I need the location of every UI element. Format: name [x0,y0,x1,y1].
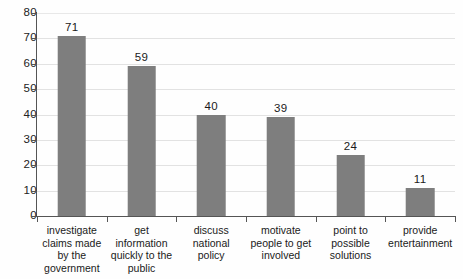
bar-slot: 71 [37,13,107,216]
x-category-label-line: information [109,237,175,250]
x-category-label: investigateclaims madeby thegovernment [37,224,107,279]
bar-value-label: 40 [204,101,218,113]
x-category-label-line: point to [318,224,384,237]
x-category-label-line: motivate [248,224,314,237]
bar[interactable] [336,155,365,216]
bar[interactable] [127,66,156,216]
bar-value-label: 59 [135,52,149,64]
x-category-label-line: discuss [178,224,244,237]
bar-slot: 40 [176,13,246,216]
x-category-label-line: get [109,224,175,237]
x-category-label-line: possible [318,237,384,250]
x-axis-category-labels: investigateclaims madeby thegovernmentge… [37,224,455,279]
bar-value-label: 24 [344,141,358,153]
x-tick-mark [385,216,386,222]
x-category-label-line: national [178,237,244,250]
x-category-label-line: policy [178,249,244,262]
x-tick-mark [316,216,317,222]
x-category-label-line: solutions [318,249,384,262]
x-category-label: provideentertainment [385,224,455,279]
x-category-label-line: claims made [39,237,105,250]
bar-series: 715940392411 [37,13,455,216]
bar[interactable] [267,117,296,216]
bar[interactable] [406,188,435,216]
bar-value-label: 11 [414,174,427,186]
x-category-label: discussnationalpolicy [176,224,246,279]
x-category-label: motivatepeople to getinvolved [246,224,316,279]
x-category-label-line: people to get [248,237,314,250]
bar[interactable] [58,36,87,216]
bar-chart: 01020304050607080 715940392411 investiga… [0,0,463,279]
x-tick-mark [246,216,247,222]
x-category-label: point topossiblesolutions [316,224,386,279]
bar-value-label: 39 [274,103,288,115]
x-category-label-line: entertainment [387,237,453,250]
x-category-label-line: public [109,262,175,275]
bar-slot: 39 [246,13,316,216]
bar-value-label: 71 [65,22,79,34]
bar-slot: 11 [385,13,455,216]
x-tick-mark [107,216,108,222]
x-category-label-line: involved [248,249,314,262]
bar-slot: 59 [107,13,177,216]
bar[interactable] [197,115,226,217]
x-category-label-line: by the [39,249,105,262]
x-category-label-line: provide [387,224,453,237]
x-tick-mark [37,216,38,222]
x-category-label-line: investigate [39,224,105,237]
y-axis: 01020304050607080 [0,0,37,279]
x-tick-mark [455,216,456,222]
x-category-label-line: quickly to the [109,249,175,262]
x-category-label-line: government [39,262,105,275]
x-axis-ticks [37,216,455,222]
bar-slot: 24 [316,13,386,216]
x-tick-mark [176,216,177,222]
x-category-label: getinformationquickly to thepublic [107,224,177,279]
